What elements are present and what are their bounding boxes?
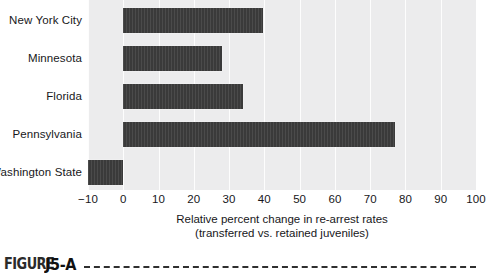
figure-caption: FIGURE J5-A [4, 252, 476, 276]
bar-row [88, 116, 476, 154]
x-axis-title-line2: (transferred vs. retained juveniles) [88, 227, 476, 241]
bar-row [88, 154, 476, 190]
category-label-minnesota: Minnesota [0, 51, 82, 65]
bar-minnesota [123, 46, 222, 71]
x-axis-title-line1: Relative percent change in re-arrest rat… [176, 213, 388, 225]
x-tick-label: 100 [466, 193, 486, 205]
x-tick-label: −10 [78, 193, 98, 205]
x-tick-label: 20 [187, 193, 200, 205]
figure-caption-rule [84, 266, 476, 268]
category-label-new-york-city: New York City [0, 13, 82, 27]
chart-x-axis-title: Relative percent change in re-arrest rat… [88, 213, 476, 240]
bar-row [88, 40, 476, 78]
category-label-pennsylvania: Pennsylvania [0, 127, 82, 141]
x-tick-label: 40 [258, 193, 271, 205]
x-tick-label: 90 [434, 193, 447, 205]
category-label-florida: Florida [0, 89, 82, 103]
x-tick-label: 80 [399, 193, 412, 205]
chart-plot-area [88, 0, 476, 190]
x-tick-label: 30 [223, 193, 236, 205]
bar-pennsylvania [123, 122, 395, 147]
category-label-washington-state: Washington State [0, 165, 82, 179]
bar-florida [123, 84, 243, 109]
x-tick-label: 50 [293, 193, 306, 205]
bar-row [88, 78, 476, 116]
x-tick-label: 70 [364, 193, 377, 205]
chart-x-axis: −100102030405060708090100 [88, 190, 476, 212]
bar-new-york-city [123, 8, 262, 33]
bar-row [88, 2, 476, 40]
x-tick-label: 0 [120, 193, 127, 205]
x-tick-label: 10 [152, 193, 165, 205]
figure-caption-number: J5-A [45, 255, 76, 274]
bar-washington-state [88, 160, 123, 185]
x-tick-label: 60 [328, 193, 341, 205]
